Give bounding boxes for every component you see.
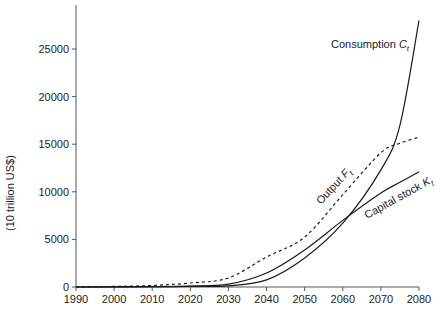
- x-ticks: 1990200020102020203020402050206020702080: [64, 287, 431, 305]
- x-tick-label: 1990: [64, 293, 88, 305]
- x-tick-label: 2040: [254, 293, 278, 305]
- y-axis-title: (10 trillion US$): [4, 155, 16, 231]
- consumption-label: Consumption Ct: [331, 38, 410, 53]
- consumption-line: [76, 20, 419, 287]
- y-tick-label: 10000: [38, 186, 69, 198]
- y-tick-label: 20000: [38, 91, 69, 103]
- y-ticks: 0500010000150002000025000: [38, 43, 76, 293]
- y-tick-label: 25000: [38, 43, 69, 55]
- line-chart: 1990200020102020203020402050206020702080…: [0, 0, 441, 320]
- series-lines: [76, 20, 419, 287]
- capital-stock-line: [76, 172, 419, 287]
- y-tick-label: 0: [63, 281, 69, 293]
- x-tick-label: 2000: [102, 293, 126, 305]
- x-tick-label: 2050: [292, 293, 316, 305]
- x-tick-label: 2010: [140, 293, 164, 305]
- x-tick-label: 2020: [178, 293, 202, 305]
- x-tick-label: 2070: [369, 293, 393, 305]
- axes: 1990200020102020203020402050206020702080…: [38, 5, 431, 305]
- x-tick-label: 2080: [407, 293, 431, 305]
- x-tick-label: 2030: [216, 293, 240, 305]
- x-tick-label: 2060: [331, 293, 355, 305]
- y-tick-label: 5000: [45, 233, 69, 245]
- y-tick-label: 15000: [38, 138, 69, 150]
